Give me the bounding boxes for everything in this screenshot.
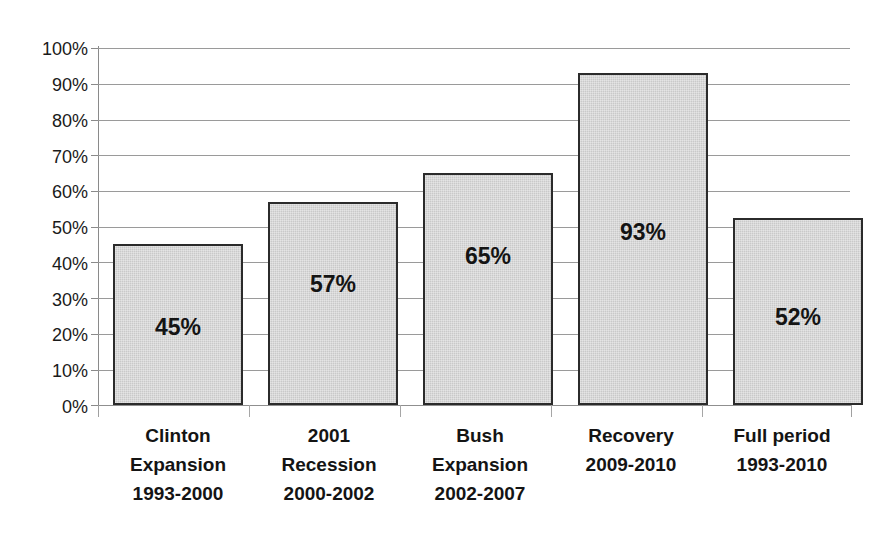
x-axis-label-2001-recession: 2001 Recession 2000-2002 bbox=[254, 421, 404, 508]
x-label-line-2: 2009-2010 bbox=[556, 450, 706, 479]
x-axis-label-clinton-expansion: Clinton Expansion 1993-2000 bbox=[103, 421, 253, 508]
y-axis-label-60: 60% bbox=[10, 183, 88, 201]
y-tick-10 bbox=[91, 370, 98, 371]
chart-title bbox=[0, 0, 881, 4]
x-axis-separator bbox=[551, 405, 552, 417]
x-axis-separator bbox=[400, 405, 401, 417]
gridline-70 bbox=[98, 155, 850, 156]
y-tick-40 bbox=[91, 262, 98, 263]
x-label-line-2: Recession bbox=[254, 450, 404, 479]
y-tick-60 bbox=[91, 191, 98, 192]
y-tick-90 bbox=[91, 84, 98, 85]
y-axis-label-20: 20% bbox=[10, 326, 88, 344]
bar-value-label: 57% bbox=[270, 271, 396, 298]
x-label-line-3: 2000-2002 bbox=[254, 479, 404, 508]
y-axis-label-80: 80% bbox=[10, 112, 88, 130]
x-axis-labels: Clinton Expansion 1993-2000 2001 Recessi… bbox=[98, 421, 852, 531]
x-axis-label-bush-expansion: Bush Expansion 2002-2007 bbox=[405, 421, 555, 508]
plot-area: 45% 57% 65% 93% 52% bbox=[98, 48, 850, 405]
bar-value-label: 52% bbox=[735, 304, 861, 331]
y-tick-100 bbox=[91, 48, 98, 49]
gridline-90 bbox=[98, 84, 850, 85]
y-tick-70 bbox=[91, 155, 98, 156]
bar-recovery[interactable]: 93% bbox=[578, 73, 708, 405]
bar-chart: 100% 90% 80% 70% 60% 50% 40% 30% 20% 10%… bbox=[0, 0, 881, 542]
x-label-line-3: 1993-2000 bbox=[103, 479, 253, 508]
x-axis-separator bbox=[702, 405, 703, 417]
bar-value-label: 65% bbox=[425, 243, 551, 270]
x-axis-separator bbox=[249, 405, 250, 417]
bar-2001-recession[interactable]: 57% bbox=[268, 202, 398, 406]
y-tick-50 bbox=[91, 227, 98, 228]
x-label-line-2: 1993-2010 bbox=[707, 450, 857, 479]
x-label-line-1: 2001 bbox=[254, 421, 404, 450]
y-tick-20 bbox=[91, 334, 98, 335]
bar-value-label: 93% bbox=[580, 219, 706, 246]
x-axis-label-full-period: Full period 1993-2010 bbox=[707, 421, 857, 479]
gridline-100 bbox=[98, 48, 850, 49]
bar-full-period[interactable]: 52% bbox=[733, 218, 863, 405]
y-axis-label-100: 100% bbox=[10, 40, 88, 58]
x-label-line-1: Bush bbox=[405, 421, 555, 450]
y-axis-label-70: 70% bbox=[10, 148, 88, 166]
x-axis-label-recovery: Recovery 2009-2010 bbox=[556, 421, 706, 479]
x-label-line-3: 2002-2007 bbox=[405, 479, 555, 508]
x-axis-frame bbox=[98, 405, 852, 417]
y-axis-labels: 100% 90% 80% 70% 60% 50% 40% 30% 20% 10%… bbox=[10, 0, 88, 542]
x-label-line-1: Recovery bbox=[556, 421, 706, 450]
y-axis-label-90: 90% bbox=[10, 76, 88, 94]
y-tick-30 bbox=[91, 298, 98, 299]
y-axis-label-40: 40% bbox=[10, 255, 88, 273]
bar-value-label: 45% bbox=[115, 314, 241, 341]
bar-clinton-expansion[interactable]: 45% bbox=[113, 244, 243, 405]
bar-bush-expansion[interactable]: 65% bbox=[423, 173, 553, 405]
y-tick-80 bbox=[91, 120, 98, 121]
y-axis-label-30: 30% bbox=[10, 291, 88, 309]
y-axis-label-0: 0% bbox=[10, 398, 88, 416]
y-axis-label-10: 10% bbox=[10, 362, 88, 380]
x-label-line-1: Clinton bbox=[103, 421, 253, 450]
x-label-line-1: Full period bbox=[707, 421, 857, 450]
y-axis-label-50: 50% bbox=[10, 219, 88, 237]
gridline-80 bbox=[98, 120, 850, 121]
x-label-line-2: Expansion bbox=[103, 450, 253, 479]
x-label-line-2: Expansion bbox=[405, 450, 555, 479]
y-tick-0 bbox=[91, 405, 98, 406]
